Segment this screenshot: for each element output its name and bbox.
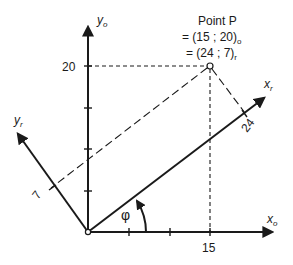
projection-line-yr7 [51,68,207,188]
angle-label: φ [121,207,130,223]
svg-text:= (15 ; 20)o: = (15 ; 20)o [182,30,242,46]
svg-text:= (24 ; 7)r: = (24 ; 7)r [186,46,237,62]
projection-line-xr24 [212,69,245,113]
y-r-tick-7 [49,185,56,190]
point-p [207,63,213,69]
yr-tick-label-7: 7 [29,188,44,202]
x-r-label: xr [263,77,273,93]
xr-tick-label-24: 24 [238,115,257,134]
y-r-label: yr [13,113,23,129]
angle-arc [137,201,146,232]
coordinate-diagram: xo yo xr yr 20 15 24 7 φ Point P = (15 ;… [0,0,293,265]
origin-point [85,229,90,234]
x-r-axis [88,98,264,232]
x-o-label: xo [266,212,278,228]
y-o-label: yo [96,13,108,29]
y-r-axis [18,134,88,232]
y-tick-label-20: 20 [62,60,76,74]
point-p-annotation: Point P = (15 ; 20)o = (24 ; 7)r [182,14,242,62]
svg-text:Point P: Point P [198,14,237,28]
x-tick-label-15: 15 [202,241,216,255]
